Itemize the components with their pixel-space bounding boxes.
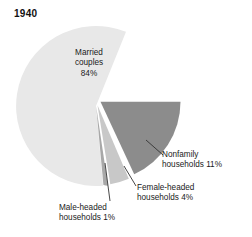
slice-label-nonfamily-line1: Nonfamily [162,150,222,160]
slice-label-married-value: 84% [52,69,126,79]
slice-label-male-headed-households: Male-headed households 1% [59,203,115,224]
slice-label-female-line2: households 4% [137,193,194,203]
slice-label-male-line2: households 1% [59,213,115,223]
pie-chart-graphic [0,0,252,237]
slice-label-nonfamily-line2: households 11% [162,160,222,170]
slice-label-married-line2: couples [52,58,126,68]
slice-label-female-headed-households: Female-headed households 4% [137,183,194,204]
slice-label-married-line1: Married [52,48,126,58]
pie-chart-figure: 1940 Married couples 84% Nonfamily house… [0,0,252,237]
slice-label-male-line1: Male-headed [59,203,115,213]
slice-label-married-couples: Married couples 84% [52,48,126,79]
slice-label-female-line1: Female-headed [137,183,194,193]
slice-label-nonfamily-households: Nonfamily households 11% [162,150,222,171]
